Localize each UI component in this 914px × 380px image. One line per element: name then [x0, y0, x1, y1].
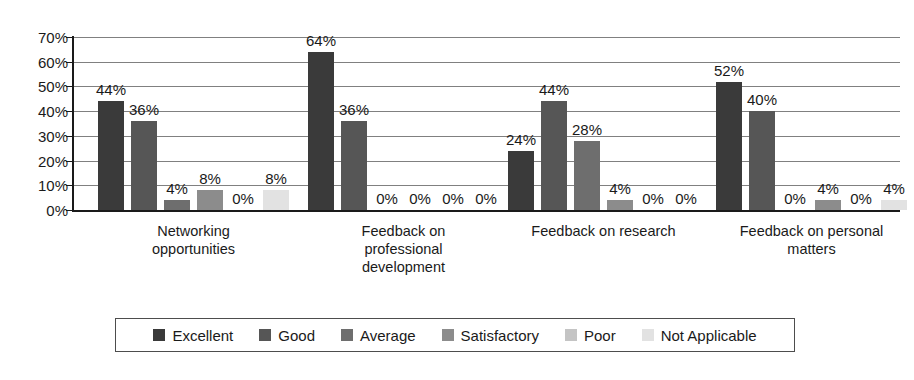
- plot-area: 0%10%20%30%40%50%60%70% 44%36%4%8%0%8%64…: [0, 0, 914, 300]
- bar[interactable]: [131, 121, 157, 210]
- bar[interactable]: [815, 200, 841, 210]
- y-axis-tick-mark: [66, 185, 73, 186]
- legend: ExcellentGoodAverageSatisfactoryPoorNot …: [115, 318, 795, 352]
- y-axis-tick-mark: [66, 161, 73, 162]
- legend-label: Poor: [584, 328, 616, 343]
- bar-value-label: 4%: [883, 181, 905, 196]
- bar-value-label: 0%: [409, 191, 431, 206]
- bar-groups: 44%36%4%8%0%8%64%36%0%0%0%0%24%44%28%4%0…: [72, 37, 900, 210]
- y-axis-tick-mark: [66, 37, 73, 38]
- bar-value-label: 24%: [506, 132, 536, 147]
- legend-label: Satisfactory: [461, 328, 539, 343]
- bar[interactable]: [574, 141, 600, 210]
- legend-item[interactable]: Satisfactory: [442, 328, 539, 343]
- bar[interactable]: [749, 111, 775, 210]
- bar-chart: 0%10%20%30%40%50%60%70% 44%36%4%8%0%8%64…: [0, 0, 914, 380]
- category-label-line: development: [304, 258, 504, 276]
- legend-swatch-icon: [442, 329, 454, 341]
- category-label-line: Networking: [94, 222, 294, 240]
- legend-item[interactable]: Good: [259, 328, 315, 343]
- bar-value-label: 64%: [306, 33, 336, 48]
- x-axis-category-labels: NetworkingopportunitiesFeedback onprofes…: [72, 222, 900, 300]
- legend-items: ExcellentGoodAverageSatisfactoryPoorNot …: [153, 328, 756, 343]
- bar-value-label: 4%: [817, 181, 839, 196]
- bar-value-label: 0%: [232, 191, 254, 206]
- bar-value-label: 4%: [166, 181, 188, 196]
- bar[interactable]: [607, 200, 633, 210]
- legend-swatch-icon: [642, 329, 654, 341]
- y-axis-tick-labels: 0%10%20%30%40%50%60%70%: [24, 30, 68, 210]
- y-axis-tick-mark: [66, 86, 73, 87]
- bar-value-label: 44%: [539, 82, 569, 97]
- bar-group: 24%44%28%4%0%0%: [508, 37, 699, 210]
- legend-item[interactable]: Excellent: [153, 328, 233, 343]
- legend-item[interactable]: Average: [341, 328, 416, 343]
- bar-value-label: 52%: [714, 63, 744, 78]
- y-axis-tick-mark: [66, 136, 73, 137]
- y-axis-tick-label: 70%: [38, 30, 68, 45]
- bar[interactable]: [308, 52, 334, 210]
- bar-value-label: 8%: [265, 171, 287, 186]
- y-axis-tick-mark: [66, 62, 73, 63]
- bar[interactable]: [98, 101, 124, 210]
- x-axis-category-label: Feedback on personalmatters: [712, 222, 912, 258]
- bar[interactable]: [263, 190, 289, 210]
- legend-label: Excellent: [172, 328, 233, 343]
- bar-value-label: 0%: [376, 191, 398, 206]
- bar[interactable]: [508, 151, 534, 210]
- y-axis-tick-label: 20%: [38, 153, 68, 168]
- legend-swatch-icon: [565, 329, 577, 341]
- bar-value-label: 0%: [784, 191, 806, 206]
- category-label-line: Feedback on research: [504, 222, 704, 240]
- bar-value-label: 44%: [96, 82, 126, 97]
- bar-group: 44%36%4%8%0%8%: [98, 37, 289, 210]
- bar-value-label: 40%: [747, 92, 777, 107]
- y-axis-tick-label: 60%: [38, 54, 68, 69]
- category-label-line: opportunities: [94, 240, 294, 258]
- bar[interactable]: [716, 82, 742, 211]
- y-axis-tick-mark: [66, 111, 73, 112]
- bar-value-label: 0%: [475, 191, 497, 206]
- x-axis-category-label: Feedback onprofessionaldevelopment: [304, 222, 504, 276]
- bar-group: 52%40%0%4%0%4%: [716, 37, 907, 210]
- legend-swatch-icon: [341, 329, 353, 341]
- category-label-line: matters: [712, 240, 912, 258]
- legend-label: Not Applicable: [661, 328, 757, 343]
- bar-group: 64%36%0%0%0%0%: [308, 37, 499, 210]
- y-axis-tick-label: 50%: [38, 79, 68, 94]
- y-axis-tick-label: 40%: [38, 104, 68, 119]
- x-axis-category-label: Networkingopportunities: [94, 222, 294, 258]
- x-axis-category-label: Feedback on research: [504, 222, 704, 240]
- legend-label: Good: [278, 328, 315, 343]
- category-label-line: professional: [304, 240, 504, 258]
- legend-swatch-icon: [259, 329, 271, 341]
- bar[interactable]: [341, 121, 367, 210]
- axis-baseline: [72, 210, 900, 212]
- bar-value-label: 28%: [572, 122, 602, 137]
- category-label-line: Feedback on personal: [712, 222, 912, 240]
- legend-swatch-icon: [153, 329, 165, 341]
- y-axis-tick-mark: [66, 210, 73, 211]
- bar-value-label: 36%: [339, 102, 369, 117]
- category-label-line: Feedback on: [304, 222, 504, 240]
- bar-value-label: 4%: [609, 181, 631, 196]
- bar-value-label: 0%: [675, 191, 697, 206]
- bar-value-label: 36%: [129, 102, 159, 117]
- bar-value-label: 8%: [199, 171, 221, 186]
- y-axis-tick-label: 30%: [38, 128, 68, 143]
- bar[interactable]: [197, 190, 223, 210]
- legend-label: Average: [360, 328, 416, 343]
- bar[interactable]: [541, 101, 567, 210]
- bar-value-label: 0%: [442, 191, 464, 206]
- bar-value-label: 0%: [850, 191, 872, 206]
- legend-item[interactable]: Not Applicable: [642, 328, 757, 343]
- y-axis-tick-label: 0%: [46, 203, 68, 218]
- legend-item[interactable]: Poor: [565, 328, 616, 343]
- bar-value-label: 0%: [642, 191, 664, 206]
- y-axis-tick-label: 10%: [38, 178, 68, 193]
- bar[interactable]: [164, 200, 190, 210]
- bar[interactable]: [881, 200, 907, 210]
